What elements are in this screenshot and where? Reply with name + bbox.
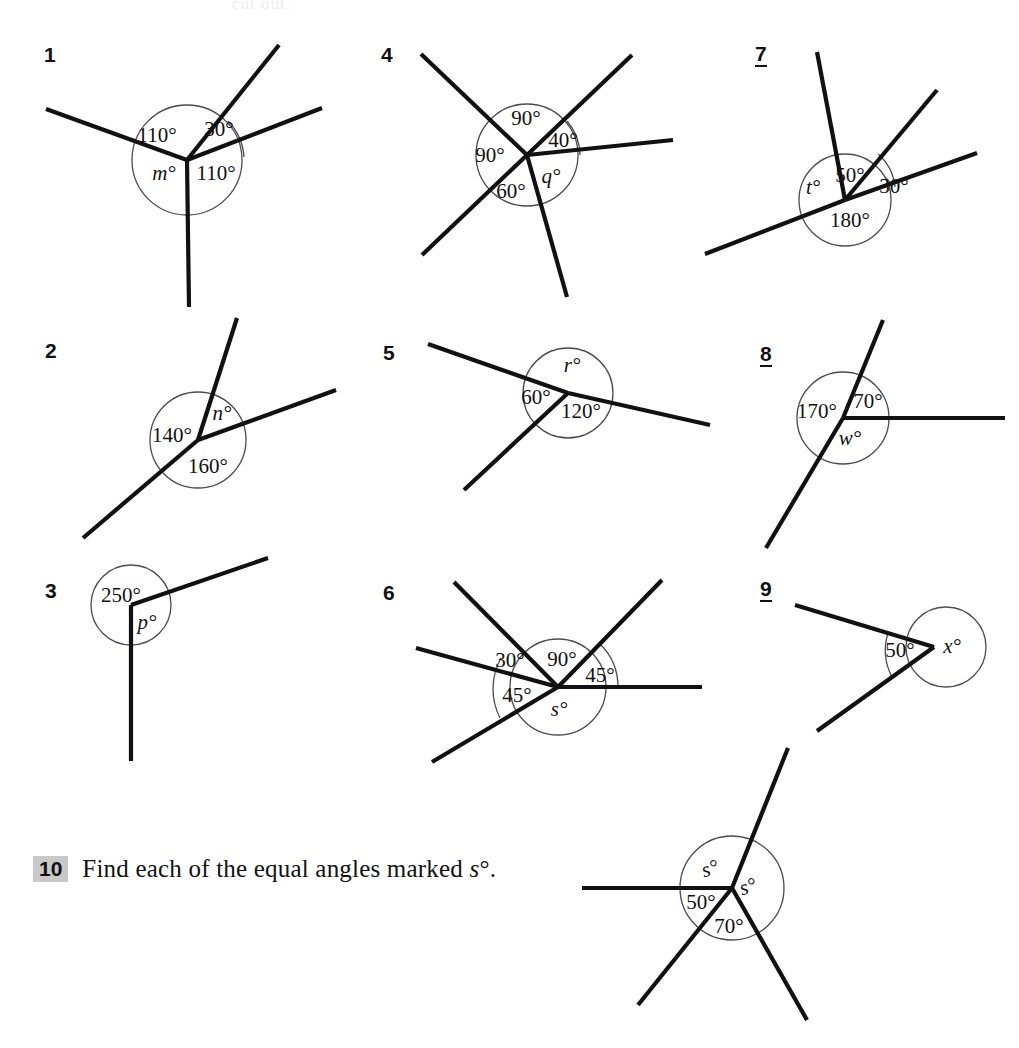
- angle-label-5-a: 60°: [521, 385, 550, 409]
- angle-label-1-a: 110°: [137, 123, 176, 147]
- angle-label-5-b: 120°: [561, 399, 601, 423]
- diagram-10: s° s° 50° 70°: [560, 730, 960, 1048]
- angle-label-4-b: 40°: [548, 128, 577, 152]
- angle-label-1-b: 30°: [204, 117, 233, 141]
- angle-label-4-unknown: q°: [542, 164, 562, 188]
- diagram-8: 170° 70° w°: [720, 320, 1019, 570]
- angle-label-4-d: 60°: [496, 179, 525, 203]
- angle-label-6-unknown: s°: [551, 697, 568, 721]
- angle-label-10-unknown-a: s°: [698, 854, 722, 882]
- angle-label-6-a: 30°: [495, 648, 524, 672]
- ray-2-downleft: [83, 440, 198, 538]
- question-10-degree: °: [479, 855, 489, 882]
- diagram-4: 90° 40° 90° 60° q°: [360, 0, 720, 320]
- diagram-7: 50° 30° t° 180°: [700, 0, 1019, 320]
- angle-label-6-d: 45°: [502, 683, 531, 707]
- angle-label-4-a: 90°: [511, 106, 540, 130]
- ray-10-downright: [732, 888, 807, 1020]
- angle-label-7-b: 30°: [879, 174, 908, 198]
- question-10-variable: s: [469, 855, 479, 882]
- ray-9-downleft: [817, 647, 934, 731]
- question-10-text: Find each of the equal angles marked s°.: [82, 855, 496, 883]
- angle-label-1-c: 110°: [196, 161, 235, 185]
- diagram-2: 140° n° 160°: [0, 310, 360, 570]
- angle-label-8-b: 70°: [853, 389, 882, 413]
- angle-label-3-unknown: p°: [136, 610, 158, 634]
- angle-label-7-unknown: t°: [806, 175, 821, 199]
- angle-label-10-b: 70°: [714, 914, 743, 938]
- angle-label-9-a: 50°: [885, 638, 914, 662]
- angle-label-3-a: 250°: [101, 583, 141, 607]
- angle-label-8-a: 170°: [797, 399, 837, 423]
- angle-label-10-unknown-b: s°: [736, 872, 760, 900]
- ray-4-downleft: [422, 155, 527, 255]
- ray-7-lineleft: [705, 200, 845, 254]
- question-number-10: 10: [33, 856, 68, 882]
- ray-10-downleft: [638, 888, 732, 1005]
- ray-1-down: [187, 160, 189, 307]
- ray-4-upleft: [421, 54, 527, 155]
- angle-label-8-unknown: w°: [839, 426, 862, 450]
- diagram-3: 250° p°: [0, 555, 300, 785]
- ray-3-upright: [131, 558, 268, 605]
- ray-8-downleft: [766, 418, 843, 548]
- angle-label-5-unknown: r°: [564, 353, 581, 377]
- angle-label-2-unknown: n°: [213, 401, 233, 425]
- angle-label-10-a: 50°: [686, 890, 715, 914]
- diagram-5: r° 60° 120°: [360, 320, 720, 550]
- question-10-text-after: .: [490, 855, 496, 882]
- ray-5-downleft: [464, 393, 568, 490]
- ray-6-downleft: [432, 687, 558, 762]
- angle-label-7-a: 50°: [835, 163, 864, 187]
- angle-label-1-unknown: m°: [152, 161, 176, 185]
- angle-label-6-c: 45°: [585, 663, 614, 687]
- angle-label-6-b: 90°: [547, 647, 576, 671]
- ray-4-upright: [527, 55, 632, 155]
- question-10-text-before: Find each of the equal angles marked: [82, 855, 469, 882]
- angle-label-2-a: 140°: [152, 423, 192, 447]
- angle-label-7-c: 180°: [830, 208, 870, 232]
- worksheet-page: cut out. 1 110° 30° 110° m° 4 90° 40° 90…: [0, 0, 1019, 1048]
- angle-label-9-unknown: x°: [942, 634, 961, 658]
- angle-label-4-c: 90°: [475, 143, 504, 167]
- angle-label-2-b: 160°: [188, 454, 228, 478]
- question-10-row: 10 Find each of the equal angles marked …: [33, 855, 496, 883]
- diagram-1: 110° 30° 110° m°: [0, 0, 360, 320]
